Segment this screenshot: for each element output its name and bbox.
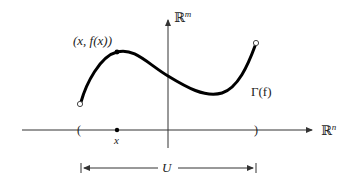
open-endpoint-left — [77, 101, 82, 106]
domain-label: U — [162, 160, 173, 175]
x-point — [115, 128, 119, 132]
open-endpoint-right — [253, 40, 258, 45]
graph-label: Γ(f) — [251, 84, 272, 99]
point-on-graph — [115, 50, 120, 55]
vertical-axis-label: ℝm — [174, 9, 192, 25]
horizontal-axis-label: ℝn — [321, 122, 337, 138]
left-bracket: ( — [77, 123, 81, 137]
right-bracket: ) — [254, 123, 258, 137]
point-label: (x, f(x)) — [73, 33, 112, 48]
x-label: x — [113, 134, 119, 146]
function-graph-diagram: ℝm ℝn (x, f(x)) Γ(f) ( ) x U — [0, 0, 352, 183]
